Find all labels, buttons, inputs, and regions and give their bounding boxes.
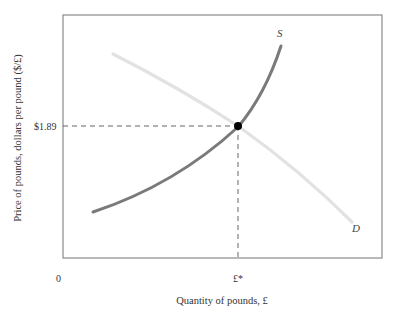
plot-frame xyxy=(63,15,382,258)
y-axis-label: Price of pounds, dollars per pound ($/£) xyxy=(12,54,24,222)
supply-curve xyxy=(93,46,281,212)
supply-label: S xyxy=(277,27,283,39)
x-axis-label: Quantity of pounds, £ xyxy=(176,295,268,306)
demand-label: D xyxy=(351,222,360,234)
supply-demand-chart: S D $1.89 0 £* Quantity of pounds, £ Pri… xyxy=(0,0,395,317)
x-tick-zero: 0 xyxy=(56,273,61,284)
equilibrium-point xyxy=(234,122,242,130)
x-tick-equilibrium-quantity: £* xyxy=(233,273,243,284)
y-tick-price: $1.89 xyxy=(34,121,57,132)
demand-curve xyxy=(113,54,352,222)
